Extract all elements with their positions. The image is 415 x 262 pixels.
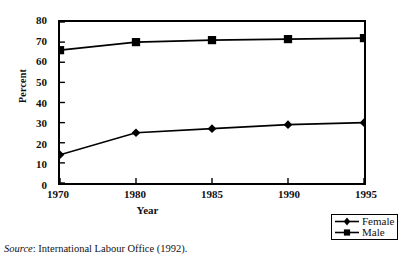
source-prefix: Source [4, 243, 33, 254]
y-tick-label: 60 [19, 56, 47, 67]
legend-item-male: Male [334, 227, 394, 238]
y-tick-label: 10 [19, 159, 47, 170]
x-tick-label: 1970 [33, 188, 83, 200]
x-tick-label: 1985 [187, 188, 237, 200]
source-note: Source: International Labour Office (199… [4, 243, 187, 254]
square-marker-icon [334, 227, 360, 238]
legend: Female Male [331, 214, 398, 240]
plot-area [58, 20, 366, 185]
y-tick-label: 40 [19, 97, 47, 108]
y-tick-label: 30 [19, 118, 47, 129]
y-tick-label: 80 [19, 15, 47, 26]
legend-label-male: Male [360, 227, 385, 238]
figure-root: Percent 01020304050607080 19701980198519… [0, 0, 415, 262]
diamond-marker-icon [334, 216, 360, 227]
y-tick-label: 50 [19, 76, 47, 87]
clipped-title [0, 0, 415, 4]
x-tick-label: 1980 [110, 188, 160, 200]
x-tick-label: 1990 [264, 188, 314, 200]
x-tick-label: 1995 [341, 188, 391, 200]
y-tick-label: 70 [19, 35, 47, 46]
source-text: : International Labour Office (1992). [33, 243, 188, 254]
series-canvas [60, 22, 364, 183]
y-tick-label: 20 [19, 138, 47, 149]
